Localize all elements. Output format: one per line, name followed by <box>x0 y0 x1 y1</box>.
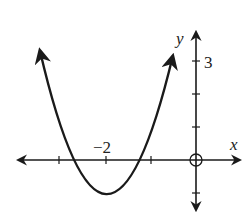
x-axis-label: x <box>229 135 238 154</box>
parabola-curve <box>40 50 173 194</box>
x-tick-label: −2 <box>93 138 111 157</box>
y-axis-label: y <box>174 29 184 48</box>
y-tick-label: 3 <box>204 53 213 72</box>
parabola-graph: −2 3 x y <box>0 0 251 217</box>
